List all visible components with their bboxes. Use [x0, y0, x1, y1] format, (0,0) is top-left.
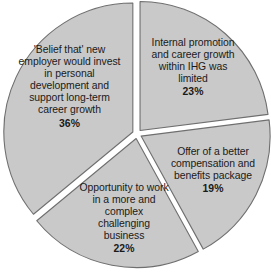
pie-slice-label-text: Opportunity to work in a more and comple… — [79, 182, 168, 241]
pie-slice-label-text: Internal promotion and career growth wit… — [152, 37, 235, 84]
pie-slice-label-better-compensation: Offer of a better compensation and benef… — [164, 146, 262, 195]
pie-slice-value: 23% — [150, 85, 236, 98]
pie-slice-label-internal-promotion: Internal promotion and career growth wit… — [150, 37, 236, 98]
pie-slice-label-challenging-business: Opportunity to work in a more and comple… — [78, 182, 170, 255]
pie-slice-label-belief-development: 'Belief that' new employer would invest … — [17, 44, 122, 130]
pie-slice-value: 22% — [78, 242, 170, 255]
pie-slice-label-text: 'Belief that' new employer would invest … — [19, 44, 121, 115]
pie-slice-label-text: Offer of a better compensation and benef… — [171, 146, 255, 181]
pie-slice-value: 19% — [164, 182, 262, 195]
pie-slice-value: 36% — [17, 117, 122, 130]
pie-chart: Internal promotion and career growth wit… — [0, 0, 271, 276]
